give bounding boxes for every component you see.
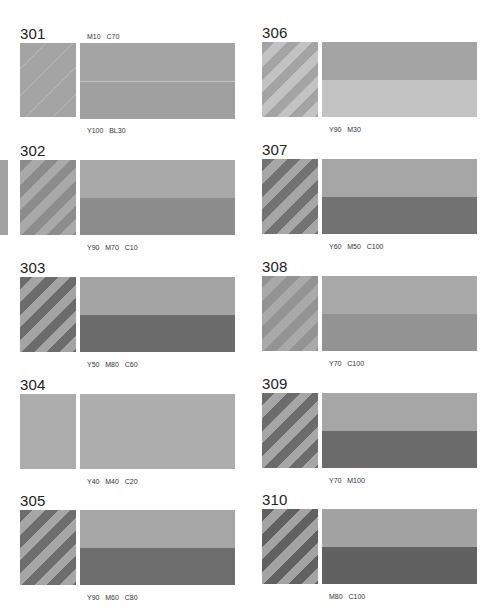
color-comparison-bar	[80, 277, 235, 352]
color-comparison-bar	[80, 160, 235, 235]
swatch-code-top: M10 C70	[87, 33, 119, 40]
bottom-color-band	[80, 81, 235, 120]
swatch-number: 309	[262, 375, 288, 392]
stripe-pattern-square	[262, 393, 318, 468]
top-color-band	[322, 393, 477, 431]
color-comparison-bar	[322, 159, 477, 234]
top-color-band	[80, 160, 235, 198]
bottom-color-band	[322, 547, 477, 585]
adjacent-swatch-edge	[0, 160, 8, 235]
bottom-color-band	[80, 432, 235, 470]
swatch-code-bottom: Y60 M50 C100	[329, 243, 383, 250]
stripe-pattern-square	[20, 43, 76, 117]
stripe-pattern-square	[262, 509, 318, 584]
swatch-number: 310	[262, 491, 288, 508]
top-color-band	[80, 43, 235, 81]
swatch-code-bottom: Y50 M80 C60	[87, 361, 138, 368]
stripe-pattern-square	[262, 42, 318, 117]
swatch-number: 306	[262, 24, 288, 41]
stripe-pattern-square	[20, 277, 76, 352]
color-comparison-bar	[80, 510, 235, 585]
color-comparison-bar	[322, 42, 477, 117]
swatch-code-bottom: Y70 M100	[329, 477, 365, 484]
stripe-pattern-square	[262, 159, 318, 234]
swatch-code-bottom: Y70 C100	[329, 360, 364, 367]
bottom-color-band	[322, 431, 477, 469]
bottom-color-band	[322, 314, 477, 352]
stripe-pattern-square	[20, 510, 76, 585]
bottom-color-band	[80, 198, 235, 236]
swatch-code-bottom: Y90 M30	[329, 126, 361, 133]
top-color-band	[80, 277, 235, 315]
color-comparison-bar	[322, 393, 477, 468]
bottom-color-band	[80, 315, 235, 353]
color-comparison-bar	[322, 276, 477, 351]
swatch-number: 304	[20, 376, 46, 393]
top-color-band	[322, 276, 477, 314]
swatch-number: 305	[20, 492, 46, 509]
color-comparison-bar	[322, 509, 477, 584]
swatch-code-bottom: Y100 BL30	[87, 127, 126, 134]
top-color-band	[322, 159, 477, 197]
swatch-number: 308	[262, 258, 288, 275]
top-color-band	[322, 42, 477, 80]
top-color-band	[322, 509, 477, 547]
swatch-code-bottom: Y90 M70 C10	[87, 244, 138, 251]
bottom-color-band	[322, 80, 477, 118]
color-comparison-bar	[80, 43, 235, 118]
swatch-number: 302	[20, 142, 46, 159]
bottom-color-band	[80, 548, 235, 586]
stripe-pattern-square	[20, 394, 76, 469]
top-color-band	[80, 510, 235, 548]
bottom-color-band	[322, 197, 477, 235]
color-comparison-bar	[80, 394, 235, 469]
swatch-code-bottom: M80 C100	[329, 593, 365, 600]
swatch-number: 301	[20, 25, 46, 42]
top-color-band	[80, 394, 235, 432]
swatch-code-bottom: Y40 M40 C20	[87, 478, 138, 485]
stripe-pattern-square	[20, 160, 76, 235]
swatch-number: 303	[20, 259, 46, 276]
swatch-code-bottom: Y90 M60 C80	[87, 594, 138, 601]
swatch-number: 307	[262, 141, 288, 158]
stripe-pattern-square	[262, 276, 318, 351]
